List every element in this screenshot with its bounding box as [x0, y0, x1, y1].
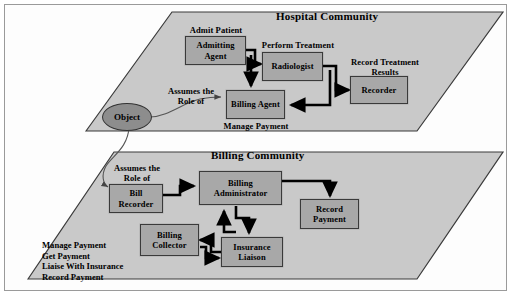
diagram-canvas: Hospital Community Billing Community Adm…: [0, 0, 513, 297]
node-billing-agent[interactable]: Billing Agent: [226, 90, 285, 119]
node-admitting-agent-label: Admitting Agent: [186, 40, 245, 61]
node-recorder[interactable]: Recorder: [350, 76, 408, 104]
billing-operations-list: Manage Payment Get Payment Liaise With I…: [42, 240, 182, 282]
label-assumes-the-role-of-lower: Assumes the Role of: [104, 163, 170, 183]
diagram-stage: Hospital Community Billing Community Adm…: [0, 0, 513, 297]
label-perform-treatment: Perform Treatment: [258, 40, 338, 50]
label-record-treatment-results: Record Treatment Results: [343, 57, 427, 77]
node-radiologist[interactable]: Radiologist: [262, 52, 323, 81]
node-bill-recorder-label: Bill Recorder: [110, 188, 162, 209]
label-manage-payment: Manage Payment: [213, 121, 299, 131]
label-admit-patient: Admit Patient: [177, 25, 255, 35]
node-insurance-liaison-label: Insurance Liaison: [222, 242, 282, 263]
label-assumes-the-role-of-upper: Assumes the Role of: [158, 86, 224, 106]
node-admitting-agent[interactable]: Admitting Agent: [185, 36, 246, 65]
node-recorder-label: Recorder: [360, 85, 399, 96]
node-insurance-liaison[interactable]: Insurance Liaison: [221, 237, 283, 267]
billing-community-title: Billing Community: [211, 149, 305, 161]
object-ellipse[interactable]: Object: [102, 103, 152, 131]
object-label: Object: [114, 112, 140, 122]
node-radiologist-label: Radiologist: [269, 61, 315, 72]
hospital-community-title: Hospital Community: [276, 10, 378, 22]
node-billing-administrator[interactable]: Billing Administrator: [199, 171, 282, 205]
node-record-payment-label: Record Payment: [301, 204, 358, 225]
node-record-payment[interactable]: Record Payment: [300, 199, 359, 229]
node-bill-recorder[interactable]: Bill Recorder: [109, 184, 163, 213]
node-billing-administrator-label: Billing Administrator: [200, 178, 281, 199]
node-billing-agent-label: Billing Agent: [229, 99, 282, 110]
